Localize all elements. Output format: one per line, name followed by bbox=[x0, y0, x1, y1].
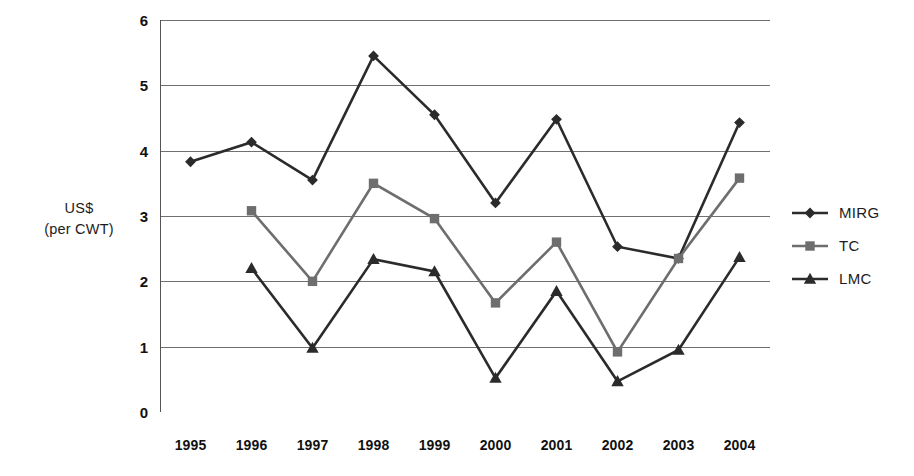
plot-area bbox=[160, 20, 770, 412]
data-point-marker bbox=[552, 237, 561, 246]
data-point-marker bbox=[491, 298, 500, 307]
legend-label: MIRG bbox=[830, 204, 879, 221]
x-axis-tick-label: 2004 bbox=[705, 438, 775, 452]
x-axis-tick-label: 1995 bbox=[156, 438, 226, 452]
legend-swatch-square-icon bbox=[790, 237, 830, 255]
legend-label: LMC bbox=[830, 270, 872, 287]
y-axis-tick-label: 6 bbox=[122, 13, 148, 28]
y-axis-tick-label: 2 bbox=[122, 274, 148, 289]
x-axis-tick-label: 1997 bbox=[278, 438, 348, 452]
data-point-marker bbox=[805, 241, 814, 250]
x-axis-tick-label: 1999 bbox=[400, 438, 470, 452]
data-point-marker bbox=[245, 262, 257, 273]
plot-svg bbox=[160, 20, 770, 412]
line-chart: US$ (per CWT) 0123456 199519961997199819… bbox=[0, 0, 914, 476]
legend-swatch-triangle-icon bbox=[790, 270, 830, 288]
data-point-marker bbox=[735, 173, 744, 182]
legend-item-mirg[interactable]: MIRG bbox=[790, 196, 908, 229]
data-point-marker bbox=[612, 241, 623, 252]
x-axis-tick-label: 2001 bbox=[522, 438, 592, 452]
y-axis-tick-label: 5 bbox=[122, 78, 148, 93]
data-point-marker bbox=[674, 254, 683, 263]
x-axis-tick-label: 1996 bbox=[217, 438, 287, 452]
data-point-marker bbox=[430, 214, 439, 223]
data-point-marker bbox=[733, 251, 745, 262]
x-axis-tick-label: 2002 bbox=[583, 438, 653, 452]
x-axis-tick-label: 2003 bbox=[644, 438, 714, 452]
x-axis-tick-label: 2000 bbox=[461, 438, 531, 452]
data-point-marker bbox=[185, 156, 196, 167]
y-axis-tick-label: 3 bbox=[122, 209, 148, 224]
data-point-marker bbox=[308, 277, 317, 286]
legend-swatch-diamond-icon bbox=[790, 204, 830, 222]
data-point-marker bbox=[805, 207, 816, 218]
data-point-marker bbox=[734, 117, 745, 128]
x-axis-tick-label: 1998 bbox=[339, 438, 409, 452]
legend-item-tc[interactable]: TC bbox=[790, 229, 908, 262]
data-point-marker bbox=[367, 253, 379, 264]
data-point-marker bbox=[369, 179, 378, 188]
legend-item-lmc[interactable]: LMC bbox=[790, 262, 908, 295]
chart-legend: MIRGTCLMC bbox=[790, 196, 908, 295]
legend-label: TC bbox=[830, 237, 860, 254]
y-axis-tick-label: 4 bbox=[122, 144, 148, 159]
data-point-marker bbox=[613, 347, 622, 356]
data-point-marker bbox=[550, 285, 562, 296]
y-axis-tick-label: 1 bbox=[122, 340, 148, 355]
y-axis-tick-label: 0 bbox=[122, 405, 148, 420]
data-point-marker bbox=[247, 206, 256, 215]
